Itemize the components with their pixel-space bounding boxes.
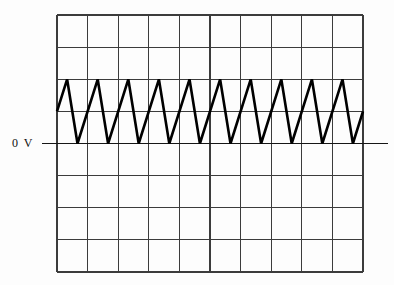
oscilloscope-figure: 0 V: [0, 0, 394, 285]
oscilloscope-graticule: [0, 0, 394, 285]
